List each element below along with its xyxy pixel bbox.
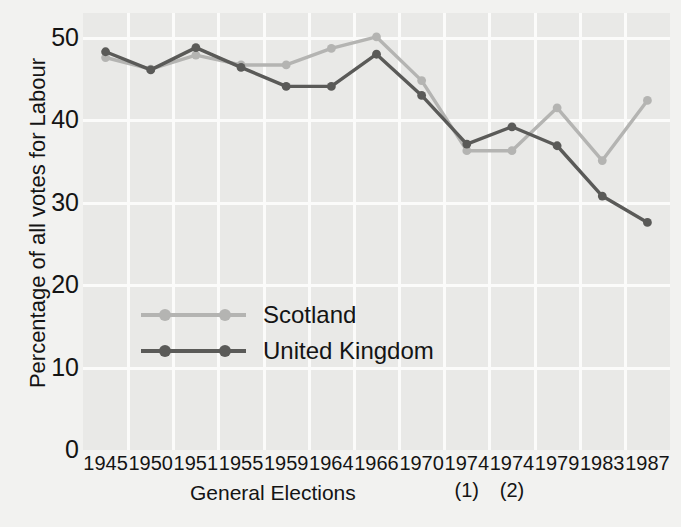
legend-marker-dot	[219, 345, 231, 357]
y-axis-tick-label: 0	[33, 437, 79, 462]
plot-area	[83, 13, 670, 450]
data-point	[191, 43, 200, 52]
x-axis-tick-label: 1979	[535, 453, 580, 473]
x-axis-tick-label: 1951	[173, 453, 218, 473]
data-point	[417, 76, 426, 85]
x-axis-tick-note: (1)	[444, 480, 489, 500]
legend-label: United Kingdom	[263, 336, 434, 366]
x-axis-tick-note: (2)	[489, 480, 534, 500]
x-axis-tick-label: 1950	[128, 453, 173, 473]
x-axis-tick-notes: (1)(2)	[83, 480, 670, 506]
data-point	[146, 65, 155, 74]
data-point	[372, 33, 381, 42]
data-point	[417, 91, 426, 100]
series-line	[106, 48, 648, 223]
data-point	[553, 141, 562, 150]
x-axis-tick-label: 1959	[264, 453, 309, 473]
x-axis-tick-label: 1974	[444, 453, 489, 473]
legend-marker-dot	[159, 309, 171, 321]
data-point	[643, 218, 652, 227]
series-lines	[83, 13, 670, 450]
x-axis-tick-label: 1987	[625, 453, 670, 473]
x-axis-tick-label: 1955	[218, 453, 263, 473]
x-axis-tick-label: 1945	[83, 453, 128, 473]
legend-item-scotland: Scotland	[141, 300, 441, 336]
legend: ScotlandUnited Kingdom	[141, 300, 441, 372]
x-axis-tick-label: 1974	[489, 453, 534, 473]
chart-screenshot: The Thistle and the nent the nationalist…	[0, 0, 681, 527]
data-point	[282, 61, 291, 70]
data-point	[237, 63, 246, 72]
legend-marker-dot	[159, 345, 171, 357]
y-axis-label: Percentage of all votes for Labour	[25, 33, 51, 413]
x-axis-tick-label: 1983	[580, 453, 625, 473]
data-point	[101, 47, 110, 56]
series-united-kingdom	[101, 43, 652, 227]
data-point	[372, 50, 381, 59]
x-axis-tick-label: 1964	[309, 453, 354, 473]
legend-label: Scotland	[263, 300, 356, 330]
data-point	[508, 146, 517, 155]
x-axis-tick-label: 1966	[354, 453, 399, 473]
legend-marker-dot	[219, 309, 231, 321]
x-axis-label: General Elections	[190, 481, 356, 505]
data-point	[598, 192, 607, 201]
legend-item-united-kingdom: United Kingdom	[141, 336, 441, 372]
data-point	[508, 122, 517, 131]
data-point	[327, 82, 336, 91]
data-point	[643, 96, 652, 105]
data-point	[462, 140, 471, 149]
x-axis-tick-label: 1970	[399, 453, 444, 473]
data-point	[282, 82, 291, 91]
data-point	[553, 103, 562, 112]
data-point	[598, 156, 607, 165]
data-point	[327, 44, 336, 53]
x-axis-ticks: 1945195019511955195919641966197019741974…	[83, 453, 670, 479]
